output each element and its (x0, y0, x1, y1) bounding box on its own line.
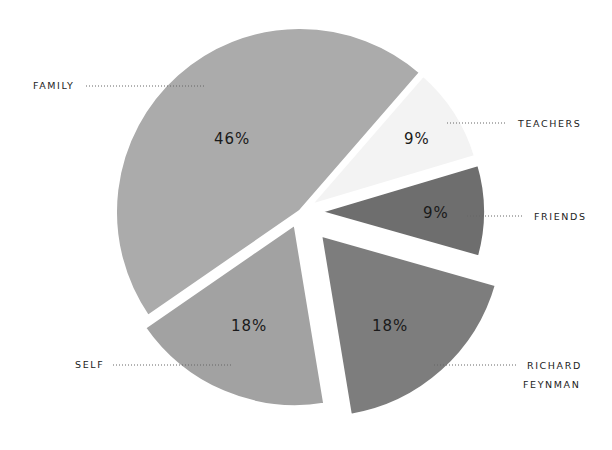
pct-label-family: 46% (214, 130, 250, 148)
pct-label-teachers: 9% (404, 130, 430, 148)
pct-label-self: 18% (231, 317, 267, 335)
category-label-self: SELF (75, 359, 104, 370)
category-label-family: FAMILY (33, 80, 75, 91)
category-label-friends: FRIENDS (534, 211, 587, 222)
pct-label-feynman: 18% (372, 317, 408, 335)
pie-chart: 46% 9% 9% 18% 18% FAMILY TEACHERS FRIEND… (0, 0, 612, 450)
pct-label-friends: 9% (423, 204, 449, 222)
category-label-feynman-line1: RICHARD (527, 360, 582, 371)
category-label-teachers: TEACHERS (517, 118, 581, 129)
category-label-feynman-line2: FEYNMAN (523, 379, 580, 390)
pie-slice-feynman (320, 234, 497, 416)
